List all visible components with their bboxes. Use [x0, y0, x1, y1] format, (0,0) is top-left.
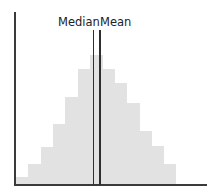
- histogram-bar: [164, 164, 177, 184]
- histogram-bar: [41, 147, 54, 184]
- histogram-bar: [139, 131, 152, 184]
- mean-line: [99, 30, 101, 185]
- histogram-bar: [127, 103, 140, 184]
- histogram-chart: Median Mean: [0, 0, 216, 194]
- histogram-bar: [102, 69, 115, 184]
- median-label: Median: [58, 16, 100, 28]
- histogram-bar: [65, 97, 78, 184]
- mean-label: Mean: [100, 16, 131, 28]
- median-line: [93, 30, 95, 185]
- histogram-bar: [53, 124, 66, 184]
- histogram-bar: [114, 83, 127, 184]
- histogram-bar: [78, 69, 91, 184]
- y-axis: [14, 12, 16, 185]
- histogram-bar: [151, 146, 164, 184]
- histogram-bar: [16, 177, 29, 184]
- x-axis: [14, 184, 207, 186]
- histogram-bar: [28, 164, 41, 184]
